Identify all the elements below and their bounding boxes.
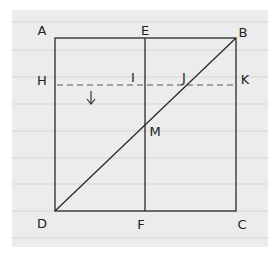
label-A: A: [38, 24, 47, 37]
label-H: H: [37, 74, 47, 87]
label-K: K: [241, 73, 250, 86]
label-C: C: [237, 218, 246, 231]
label-B: B: [239, 26, 248, 39]
label-I: I: [131, 71, 135, 84]
label-E: E: [141, 24, 149, 37]
label-F: F: [137, 218, 144, 231]
label-J: J: [182, 71, 186, 84]
label-M: M: [149, 125, 160, 138]
label-D: D: [37, 217, 47, 230]
down-arrow-icon: [87, 91, 95, 104]
